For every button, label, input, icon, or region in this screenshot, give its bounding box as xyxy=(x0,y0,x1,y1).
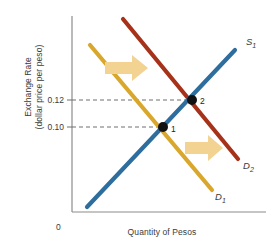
equilibrium-point-1 xyxy=(158,122,168,132)
y-axis-title-line2: (dollar price per peso) xyxy=(34,7,45,167)
y-axis-title-line1: Exchange Rate xyxy=(23,7,34,167)
equilibrium-point-2 xyxy=(187,95,197,105)
curve-label-d1-sub: 1 xyxy=(222,197,226,204)
curve-label-d1: D1 xyxy=(215,191,226,204)
demand-shift-arrow-upper-icon xyxy=(105,55,148,81)
equilibrium-label-1: 1 xyxy=(171,124,176,134)
equilibrium-label-2: 2 xyxy=(200,96,205,106)
curve-label-d2: D2 xyxy=(243,160,254,173)
curve-label-d2-text: D xyxy=(243,160,250,171)
y-tick-label-012: 0.12 xyxy=(36,95,64,105)
curve-label-d1-text: D xyxy=(215,191,222,202)
exchange-rate-chart: Exchange Rate (dollar price per peso) Qu… xyxy=(0,0,277,250)
demand-curve-d2 xyxy=(123,19,238,159)
curve-label-s1-sub: 1 xyxy=(252,42,256,49)
x-axis-title: Quantity of Pesos xyxy=(72,227,252,237)
origin-label: 0 xyxy=(56,222,61,232)
curve-label-d2-sub: 2 xyxy=(250,166,254,173)
y-axis-title: Exchange Rate (dollar price per peso) xyxy=(23,7,45,167)
curve-label-s1: S1 xyxy=(246,36,256,49)
demand-shift-arrow-lower-icon xyxy=(185,135,223,161)
y-tick-label-010: 0.10 xyxy=(36,122,64,132)
